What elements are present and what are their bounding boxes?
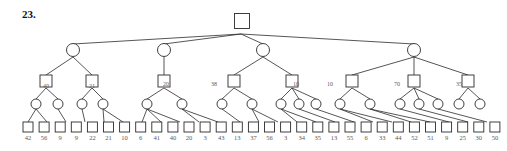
leaf-node-square-15 xyxy=(248,122,258,132)
edge-c3-s4 xyxy=(234,57,263,75)
level4-circle-node-16 xyxy=(433,99,443,109)
level4-circle-node-12 xyxy=(335,99,345,109)
leaf-value-label-23: 33 xyxy=(379,134,386,141)
edge-root-c4 xyxy=(241,34,414,44)
edge-leaf xyxy=(281,109,297,122)
edge-s4-a xyxy=(222,88,234,99)
edge-root-c3 xyxy=(241,34,263,44)
edge-s1-b xyxy=(46,88,58,99)
edge-leaf xyxy=(103,109,104,122)
leaf-node-square-27 xyxy=(442,122,452,132)
leaf-node-square-10 xyxy=(168,122,178,132)
level4-circle-node-9 xyxy=(276,99,286,109)
leaf-value-label-4: 9 xyxy=(75,134,78,141)
leaf-node-square-23 xyxy=(377,122,387,132)
edge-cost-label-8: 35 xyxy=(456,81,462,87)
leaf-node-square-6 xyxy=(104,122,114,132)
leaf-value-label-5: 22 xyxy=(89,134,96,141)
leaf-value-label-11: 20 xyxy=(186,134,193,141)
edge-s2-a xyxy=(82,88,92,99)
level4-circle-node-17 xyxy=(454,99,464,109)
edge-leaf xyxy=(28,109,36,122)
edge-c3-s5 xyxy=(263,57,292,75)
leaf-value-label-1: 42 xyxy=(25,134,32,141)
edge-leaf xyxy=(438,109,487,122)
level4-circle-node-3 xyxy=(77,99,87,109)
edge-s8-a xyxy=(459,88,468,99)
leaf-value-label-22: 6 xyxy=(364,134,368,141)
leaf-value-label-8: 6 xyxy=(139,134,143,141)
leaf-node-square-2 xyxy=(39,122,49,132)
edge-s3-a xyxy=(147,88,164,99)
level4-circle-node-6 xyxy=(177,99,187,109)
edge-s1-a xyxy=(36,88,46,99)
leaf-value-label-24: 44 xyxy=(395,134,402,141)
edge-s5-a xyxy=(281,88,292,99)
level3-square-node-7 xyxy=(408,75,420,87)
leaf-node-square-4 xyxy=(71,122,81,132)
leaf-value-label-12: 3 xyxy=(203,134,206,141)
edge-s2-b xyxy=(92,88,103,99)
leaf-value-label-27: 9 xyxy=(445,134,448,141)
edge-cost-label-2: 21 xyxy=(89,83,95,89)
edge-leaf xyxy=(82,109,85,122)
level3-square-node-8 xyxy=(462,75,474,87)
level4-to-leaf-edges xyxy=(28,109,487,122)
level4-circle-node-15 xyxy=(414,99,424,109)
leaf-value-label-6: 21 xyxy=(105,134,112,141)
leaf-node-square-25 xyxy=(409,122,419,132)
level3-square-node-6 xyxy=(346,75,358,87)
level4-circle-node-4 xyxy=(98,99,108,109)
edge-cost-label-7: 70 xyxy=(394,81,400,87)
leaf-nodes-layer: 4256992221106414020343133756334351355633… xyxy=(23,122,500,141)
leaf-value-label-13: 43 xyxy=(218,134,225,141)
leaf-node-square-17 xyxy=(281,122,291,132)
leaf-value-label-18: 34 xyxy=(298,134,305,141)
level4-circle-node-8 xyxy=(247,99,257,109)
leaf-node-square-22 xyxy=(361,122,371,132)
edge-leaf xyxy=(182,109,218,122)
edge-cost-label-6: 10 xyxy=(327,81,333,87)
game-tree-figure: 23. xyxy=(0,0,507,151)
level4-circle-node-2 xyxy=(53,99,63,109)
level4-circle-node-18 xyxy=(475,99,485,109)
edge-leaf xyxy=(182,109,199,122)
edge-leaf xyxy=(370,109,411,122)
edge-leaf xyxy=(400,109,449,122)
level2-to-level3-edges xyxy=(46,57,468,75)
leaf-node-square-29 xyxy=(474,122,484,132)
leaf-node-square-24 xyxy=(393,122,403,132)
root-to-level2-edges xyxy=(73,34,414,44)
leaf-node-square-19 xyxy=(313,122,323,132)
leaf-node-square-26 xyxy=(426,122,436,132)
edge-root-c2 xyxy=(164,34,241,44)
level2-circle-node-1 xyxy=(67,44,80,57)
edge-s7-c xyxy=(414,88,438,99)
leaf-value-label-9: 41 xyxy=(154,134,161,141)
leaf-value-label-19: 35 xyxy=(315,134,322,141)
leaf-node-square-8 xyxy=(136,122,146,132)
level2-circle-node-4 xyxy=(408,44,421,57)
edge-s7-a xyxy=(400,88,414,99)
leaf-value-label-26: 51 xyxy=(427,134,434,141)
edge-c4-s8 xyxy=(414,57,468,75)
leaf-value-label-29: 30 xyxy=(476,134,483,141)
edge-leaf xyxy=(370,109,430,122)
level3-square-node-4 xyxy=(228,75,240,87)
edge-c1-s2 xyxy=(73,57,92,75)
edge-s4-b xyxy=(234,88,252,99)
edge-cost-label-4: 38 xyxy=(211,81,217,87)
edge-leaf xyxy=(103,109,123,122)
level3-to-level4-edges xyxy=(36,88,480,99)
leaf-node-square-1 xyxy=(23,122,33,132)
level4-circle-node-5 xyxy=(142,99,152,109)
leaf-node-square-9 xyxy=(152,122,162,132)
level4-circle-node-1 xyxy=(31,99,41,109)
leaf-node-square-28 xyxy=(458,122,468,132)
edge-cost-label-3: 20 xyxy=(163,81,169,87)
level4-circle-node-13 xyxy=(365,99,375,109)
leaf-node-square-13 xyxy=(216,122,226,132)
edge-c1-s1 xyxy=(46,57,73,75)
edge-leaf xyxy=(58,109,66,122)
leaf-node-square-30 xyxy=(490,122,500,132)
